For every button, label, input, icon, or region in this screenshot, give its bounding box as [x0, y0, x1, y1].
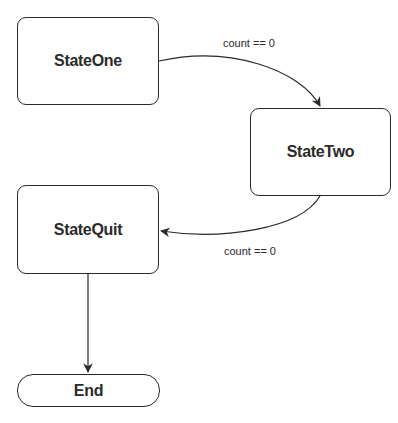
state-quit-node[interactable]: StateQuit — [17, 185, 159, 274]
state-diagram: StateOne StateTwo StateQuit End count ==… — [0, 0, 398, 423]
state-one-node[interactable]: StateOne — [17, 17, 159, 105]
edge-statetwo-to-statequit — [161, 196, 320, 234]
state-quit-label: StateQuit — [54, 221, 122, 239]
edge-label-statetwo-to-statequit: count == 0 — [224, 245, 276, 257]
edge-stateone-to-statetwo — [159, 56, 320, 106]
edge-label-stateone-to-statetwo: count == 0 — [223, 37, 275, 49]
state-one-label: StateOne — [54, 52, 122, 70]
end-node[interactable]: End — [17, 374, 160, 407]
end-label: End — [74, 382, 103, 400]
state-two-label: StateTwo — [287, 143, 355, 161]
state-two-node[interactable]: StateTwo — [250, 108, 391, 196]
